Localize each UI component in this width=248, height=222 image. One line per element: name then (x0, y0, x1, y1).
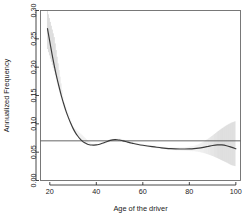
y-tick-label: 0.25 (29, 32, 38, 46)
y-tick-label: 0.05 (29, 145, 38, 159)
y-tick-label: 0.15 (29, 89, 38, 103)
x-tick-label: 100 (230, 187, 242, 196)
y-tick-label: 0.00 (29, 174, 38, 188)
x-tick-label: 80 (185, 187, 193, 196)
y-tick-label: 0.10 (29, 117, 38, 131)
x-tick-label: 20 (46, 187, 54, 196)
x-tick-label: 40 (92, 187, 100, 196)
x-tick-label: 60 (139, 187, 147, 196)
chart-container: 0.000.050.100.150.200.250.30 20406080100… (0, 0, 248, 222)
y-tick-label: 0.20 (29, 60, 38, 74)
x-axis-title: Age of the driver (113, 204, 168, 213)
y-tick-label: 0.30 (29, 4, 38, 18)
annualized-frequency-chart: 0.000.050.100.150.200.250.30 20406080100… (0, 0, 248, 222)
y-axis-title: Annualized Frequency (2, 58, 11, 132)
